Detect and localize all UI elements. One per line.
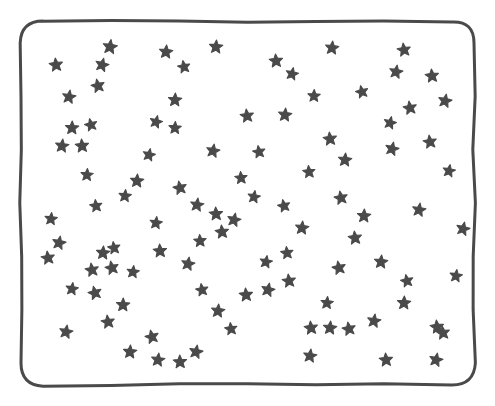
rounded-rectangle-outline-icon bbox=[20, 20, 476, 386]
star-field-illustration bbox=[0, 0, 495, 406]
frame-border bbox=[0, 0, 495, 406]
hand-drawn-border-group bbox=[20, 20, 476, 386]
